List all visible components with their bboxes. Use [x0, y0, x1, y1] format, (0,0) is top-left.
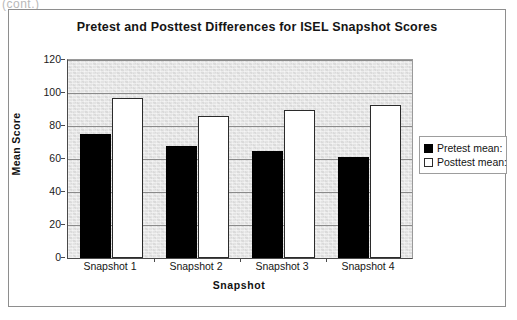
- y-axis-tick-mark: [61, 125, 65, 126]
- legend-swatch-icon: [424, 144, 433, 153]
- y-axis-tick-mark: [61, 257, 65, 258]
- y-axis-tick-labels: 120100806040200: [27, 59, 61, 257]
- chart-title: Pretest and Posttest Differences for ISE…: [9, 20, 505, 34]
- x-axis-tick-label: Snapshot 3: [239, 260, 325, 272]
- bar-pretest: [80, 134, 111, 258]
- bar-posttest: [112, 98, 143, 258]
- chart-figure: Pretest and Posttest Differences for ISE…: [8, 9, 506, 307]
- y-axis-tick-label: 120: [31, 53, 61, 65]
- y-axis-tick-label: 20: [31, 218, 61, 230]
- bar-posttest: [198, 116, 229, 258]
- legend-item: Posttest mean:: [424, 155, 503, 169]
- bar-group: [68, 60, 154, 258]
- plot-area: [67, 59, 413, 259]
- y-axis-tick-mark: [61, 158, 65, 159]
- legend-swatch-icon: [424, 158, 433, 167]
- bar-group: [154, 60, 240, 258]
- y-axis-tick-label: 40: [31, 185, 61, 197]
- x-axis-tick-label: Snapshot 2: [153, 260, 239, 272]
- y-axis-tick-label: 100: [31, 86, 61, 98]
- y-axis-tick-mark: [61, 92, 65, 93]
- x-axis-tick-label: Snapshot 1: [67, 260, 153, 272]
- bar-pretest: [338, 157, 369, 258]
- bar-group: [326, 60, 412, 258]
- y-axis-tick-label: 80: [31, 119, 61, 131]
- x-axis-title: Snapshot: [67, 279, 411, 291]
- bar-posttest: [370, 105, 401, 258]
- legend-item-label: Posttest mean:: [437, 155, 507, 169]
- y-axis-title: Mean Score: [10, 113, 22, 176]
- y-axis-tick-mark: [61, 224, 65, 225]
- bar-group: [240, 60, 326, 258]
- chart-legend: Pretest mean:Posttest mean:: [419, 136, 507, 174]
- x-axis-tick-label: Snapshot 4: [325, 260, 411, 272]
- legend-item: Pretest mean:: [424, 141, 503, 155]
- bar-pretest: [252, 151, 283, 258]
- y-axis-tick-label: 0: [31, 251, 61, 263]
- legend-item-label: Pretest mean:: [437, 141, 502, 155]
- y-axis-tick-mark: [61, 59, 65, 60]
- y-axis-tick-label: 60: [31, 152, 61, 164]
- x-axis-tick-labels: Snapshot 1Snapshot 2Snapshot 3Snapshot 4: [67, 260, 411, 276]
- bar-pretest: [166, 146, 197, 258]
- y-axis-tick-mark: [61, 191, 65, 192]
- bar-posttest: [284, 110, 315, 259]
